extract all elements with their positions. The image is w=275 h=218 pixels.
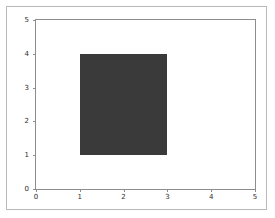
y-tick-label-4: 4 — [25, 49, 29, 58]
x-tick-label-2: 2 — [121, 193, 125, 202]
data-patch-rectangle — [80, 54, 168, 155]
x-tick-label-3: 3 — [165, 193, 169, 202]
y-tick-2 — [33, 121, 36, 122]
y-tick-5 — [33, 20, 36, 21]
x-tick-0 — [36, 189, 37, 192]
x-tick-label-1: 1 — [78, 193, 82, 202]
y-tick-3 — [33, 88, 36, 89]
axes-plot-box: 012345 012345 — [35, 19, 256, 190]
x-tick-2 — [124, 189, 125, 192]
x-tick-5 — [255, 189, 256, 192]
y-tick-1 — [33, 155, 36, 156]
y-tick-0 — [33, 189, 36, 190]
y-tick-label-1: 1 — [25, 151, 29, 160]
y-tick-label-5: 5 — [25, 16, 29, 25]
x-tick-label-0: 0 — [34, 193, 38, 202]
plot-area — [36, 20, 255, 189]
figure: 012345 012345 — [0, 0, 275, 218]
x-tick-label-5: 5 — [253, 193, 257, 202]
x-tick-1 — [80, 189, 81, 192]
x-tick-4 — [211, 189, 212, 192]
y-tick-label-3: 3 — [25, 83, 29, 92]
y-tick-4 — [33, 54, 36, 55]
x-tick-label-4: 4 — [209, 193, 213, 202]
y-tick-label-0: 0 — [25, 185, 29, 194]
x-tick-3 — [167, 189, 168, 192]
y-tick-label-2: 2 — [25, 117, 29, 126]
